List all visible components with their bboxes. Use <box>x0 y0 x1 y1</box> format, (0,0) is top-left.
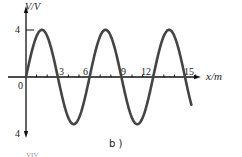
figure-caption: b ) <box>109 139 122 149</box>
x-tick-label-3: 3 <box>59 67 64 77</box>
x-tick-label-15: 15 <box>184 67 194 77</box>
x-tick-label-6: 6 <box>83 67 88 77</box>
x-axis-label: x/m <box>206 71 222 82</box>
x-tick-label-12: 12 <box>141 67 151 77</box>
y-axis-label: V/V <box>25 2 40 12</box>
footer-fragment: VIV <box>26 152 38 157</box>
x-axis-arrow-icon <box>194 75 201 79</box>
y-bottom-label: 4 <box>15 129 20 139</box>
x-tick-label-9: 9 <box>121 67 126 77</box>
y-top-label: 4 <box>15 25 20 35</box>
origin-label: 0 <box>18 81 23 91</box>
y-axis-arrow-down-icon <box>24 131 28 138</box>
